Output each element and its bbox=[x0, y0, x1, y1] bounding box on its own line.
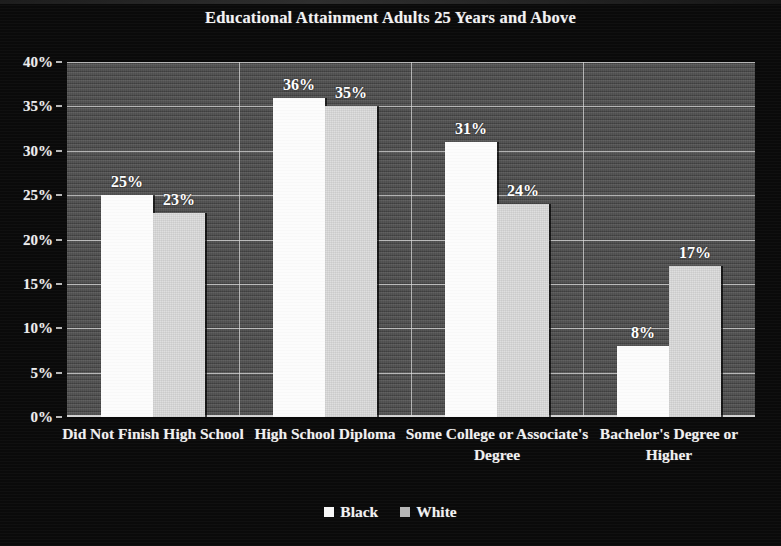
bar-value-label: 24% bbox=[491, 182, 555, 200]
x-axis-category-label: Bachelor's Degree or Higher bbox=[577, 424, 761, 466]
scan-artifact-strip bbox=[0, 0, 781, 4]
y-axis: 0%5%10%15%20%25%30%35%40% bbox=[0, 62, 62, 417]
y-axis-tick-label: 30% bbox=[23, 142, 53, 159]
y-axis-tick-mark bbox=[56, 105, 62, 107]
chart-figure: Educational Attainment Adults 25 Years a… bbox=[0, 0, 781, 546]
y-axis-tick-label: 20% bbox=[23, 231, 53, 248]
y-axis-tick-label: 5% bbox=[31, 364, 54, 381]
y-axis-tick-mark bbox=[56, 150, 62, 152]
y-axis-tick-mark bbox=[56, 61, 62, 63]
group-separator bbox=[411, 62, 412, 417]
bar-white-3 bbox=[669, 266, 721, 417]
legend-swatch-black-icon bbox=[324, 507, 334, 517]
y-axis-tick-mark bbox=[56, 283, 62, 285]
legend-label: White bbox=[416, 503, 456, 521]
plot-area: 25%23%36%35%31%24%8%17% bbox=[67, 62, 755, 417]
bar-value-label: 8% bbox=[611, 324, 675, 342]
bar-black-1 bbox=[273, 98, 325, 418]
bar-value-label: 25% bbox=[95, 173, 159, 191]
chart-title: Educational Attainment Adults 25 Years a… bbox=[0, 8, 781, 28]
chart-legend: BlackWhite bbox=[0, 503, 781, 521]
y-axis-tick-label: 0% bbox=[31, 409, 54, 426]
y-axis-tick-mark bbox=[56, 327, 62, 329]
y-axis-tick-label: 15% bbox=[23, 275, 53, 292]
bar-black-2 bbox=[445, 142, 497, 417]
y-axis-tick-mark bbox=[56, 416, 62, 418]
x-axis: Did Not Finish High SchoolHigh School Di… bbox=[67, 424, 755, 486]
bar-white-1 bbox=[325, 106, 377, 417]
y-axis-tick-mark bbox=[56, 372, 62, 374]
y-axis-tick-label: 40% bbox=[23, 54, 53, 71]
y-axis-tick-label: 35% bbox=[23, 98, 53, 115]
bar-black-3 bbox=[617, 346, 669, 417]
x-axis-category-label: High School Diploma bbox=[233, 424, 417, 445]
x-axis-category-label: Did Not Finish High School bbox=[61, 424, 245, 445]
y-axis-tick-label: 25% bbox=[23, 187, 53, 204]
bar-black-0 bbox=[101, 195, 153, 417]
group-separator bbox=[239, 62, 240, 417]
bar-value-label: 31% bbox=[439, 120, 503, 138]
group-separator bbox=[583, 62, 584, 417]
y-axis-tick-mark bbox=[56, 239, 62, 241]
legend-label: Black bbox=[340, 503, 378, 521]
bar-value-label: 17% bbox=[663, 244, 727, 262]
bar-white-2 bbox=[497, 204, 549, 417]
bar-value-label: 35% bbox=[319, 84, 383, 102]
bar-white-0 bbox=[153, 213, 205, 417]
legend-item-black[interactable]: Black bbox=[324, 503, 378, 521]
y-axis-tick-mark bbox=[56, 194, 62, 196]
bar-value-label: 23% bbox=[147, 191, 211, 209]
legend-item-white[interactable]: White bbox=[400, 503, 456, 521]
y-axis-tick-label: 10% bbox=[23, 320, 53, 337]
legend-swatch-white-icon bbox=[400, 507, 410, 517]
x-axis-category-label: Some College or Associate's Degree bbox=[405, 424, 589, 466]
